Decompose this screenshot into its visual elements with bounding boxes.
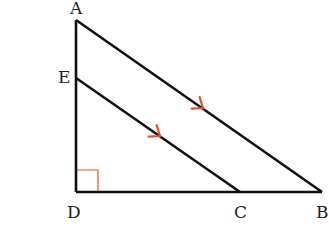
label-E: E xyxy=(58,67,70,87)
triangle-diagram: A E D C B xyxy=(0,0,329,228)
segment-AB xyxy=(76,20,322,192)
label-B: B xyxy=(316,202,329,222)
label-A: A xyxy=(69,0,83,18)
right-angle-marker xyxy=(76,170,98,192)
label-D: D xyxy=(67,202,81,222)
label-C: C xyxy=(234,202,247,222)
